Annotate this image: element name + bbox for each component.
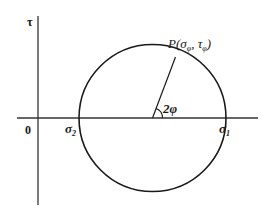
angle-label: 2φ [162,101,178,116]
tau-axis-label: τ [27,15,33,29]
sigma2-label: σ2 [65,121,76,138]
angle-arc [156,109,163,118]
origin-label: 0 [25,123,31,137]
point-p-label: P(σφ, τφ) [167,36,211,53]
mohr-circle-diagram: τ 0 σ2 σ1 P(σφ, τφ) 2φ [0,0,275,216]
sigma1-label: σ1 [219,121,230,138]
